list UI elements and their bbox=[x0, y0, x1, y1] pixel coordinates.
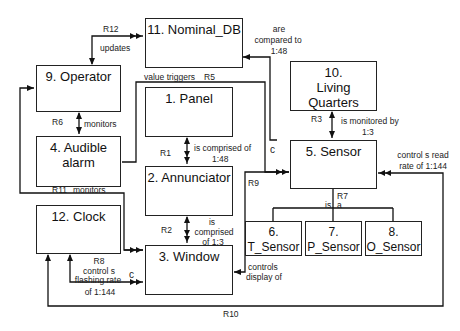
entity-t-sensor[interactable]: 6. T_Sensor bbox=[245, 221, 302, 256]
entity-p-sensor[interactable]: 7. P_Sensor bbox=[305, 221, 362, 256]
r9-id: R9 bbox=[248, 178, 259, 188]
entity-title: 4. Audible alarm bbox=[37, 137, 120, 170]
r6-id: R6 bbox=[52, 117, 63, 127]
r11-id: R11 bbox=[52, 185, 67, 195]
entity-title: 1. Panel bbox=[146, 88, 232, 106]
entity-panel[interactable]: 1. Panel bbox=[145, 87, 233, 137]
entity-sensor[interactable]: 5. Sensor bbox=[290, 140, 377, 189]
compare-line2: compared to bbox=[248, 35, 308, 45]
r3-line1: is monitored by bbox=[341, 116, 399, 126]
r9-line2: display of bbox=[246, 272, 282, 282]
entity-clock[interactable]: 12. Clock bbox=[36, 205, 121, 254]
r8-line3: of 1:144 bbox=[80, 287, 120, 297]
r3-id: R3 bbox=[311, 114, 322, 124]
r10-id: R10 bbox=[223, 309, 239, 319]
r8-line2: flashing rate bbox=[68, 275, 128, 285]
r1-line2: 1:48 bbox=[212, 154, 229, 164]
entity-nominal-db[interactable]: 11. Nominal_DB bbox=[145, 18, 243, 68]
r5-text: value triggers bbox=[144, 72, 195, 82]
r2-id: R2 bbox=[161, 225, 172, 235]
entity-title: 11. Nominal_DB bbox=[146, 19, 242, 37]
r12-id: R12 bbox=[103, 24, 119, 34]
r9-line1: controls bbox=[248, 262, 278, 272]
r11-text: monitors bbox=[73, 185, 106, 195]
r6-text: monitors bbox=[84, 119, 117, 129]
entity-living-quarters[interactable]: 10. Living Quarters bbox=[290, 61, 377, 111]
r2-line1: is bbox=[202, 217, 222, 227]
r8-id: R8 bbox=[84, 256, 114, 266]
entity-annunciator[interactable]: 2. Annunciator bbox=[145, 166, 233, 216]
entity-title-name: Living Quarters bbox=[291, 80, 376, 110]
entity-title: 3. Window bbox=[146, 246, 232, 264]
entity-window[interactable]: 3. Window bbox=[145, 245, 233, 295]
entity-title: 5. Sensor bbox=[291, 141, 376, 159]
r7-right: a bbox=[337, 200, 342, 210]
r8-marker: c bbox=[129, 270, 134, 280]
r10-line2: rate of 1:144 bbox=[388, 161, 458, 171]
entity-title: 6. T_Sensor bbox=[246, 222, 301, 255]
r7-left: is bbox=[325, 200, 331, 210]
entity-operator[interactable]: 9. Operator bbox=[36, 65, 121, 112]
compare-line1: are bbox=[264, 24, 294, 34]
entity-title: 12. Clock bbox=[37, 206, 120, 224]
compare-line3: 1:48 bbox=[264, 46, 294, 56]
r1-line1: is comprised of bbox=[194, 143, 251, 153]
r10-line1: control s read bbox=[388, 150, 458, 160]
r12-text: updates bbox=[100, 43, 130, 53]
entity-o-sensor[interactable]: 8. O_Sensor bbox=[365, 221, 422, 256]
r5-id: R5 bbox=[204, 72, 215, 82]
entity-title: 7. P_Sensor bbox=[306, 222, 361, 255]
entity-title-number: 10. bbox=[291, 62, 376, 80]
r1-id: R1 bbox=[160, 148, 171, 158]
r2-line2: comprised bbox=[192, 227, 236, 237]
entity-title: 9. Operator bbox=[37, 66, 120, 84]
entity-title: 8. O_Sensor bbox=[366, 222, 421, 255]
r3-line2: 1:3 bbox=[362, 127, 374, 137]
entity-title: 2. Annunciator bbox=[146, 167, 232, 185]
entity-audible-alarm[interactable]: 4. Audible alarm bbox=[36, 136, 121, 187]
r2-line3: of 1:3 bbox=[196, 237, 230, 247]
r5-marker: c bbox=[270, 145, 275, 155]
